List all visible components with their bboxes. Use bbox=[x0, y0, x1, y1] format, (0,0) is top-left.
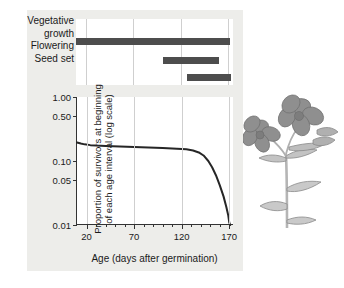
flowering-plant-illustration bbox=[243, 92, 344, 230]
plot-gridline-20 bbox=[87, 97, 88, 224]
stage-label-flowering: Flowering bbox=[27, 40, 74, 53]
y-tick-label-1.00: 1.00 bbox=[53, 92, 72, 103]
phenology-gridline-120 bbox=[181, 19, 182, 85]
x-tick-170 bbox=[229, 224, 230, 229]
x-minor-tick-30 bbox=[96, 224, 97, 227]
x-tick-120 bbox=[182, 224, 183, 229]
y-tick-0.01 bbox=[73, 225, 77, 226]
plot-gridline-70 bbox=[134, 97, 135, 224]
y-tick-label-0.05: 0.05 bbox=[53, 175, 72, 186]
phenology-bar-flowering bbox=[163, 57, 219, 64]
x-tick-20 bbox=[87, 224, 88, 229]
x-minor-tick-160 bbox=[220, 224, 221, 227]
x-minor-tick-60 bbox=[125, 224, 126, 227]
x-tick-label-70: 70 bbox=[129, 231, 140, 242]
x-minor-tick-110 bbox=[172, 224, 173, 227]
x-tick-label-120: 120 bbox=[174, 231, 190, 242]
stage-label-vegetative-line2: growth bbox=[27, 28, 74, 41]
y-tick-label-0.01: 0.01 bbox=[53, 220, 72, 231]
x-minor-tick-80 bbox=[144, 224, 145, 227]
survivorship-plot: Proportion of survivors at beginning of … bbox=[76, 97, 233, 225]
x-minor-tick-40 bbox=[106, 224, 107, 227]
phenology-gridline-70 bbox=[133, 19, 134, 85]
y-tick-label-0.10: 0.10 bbox=[53, 156, 72, 167]
x-minor-tick-100 bbox=[163, 224, 164, 227]
phenology-bar-vegetative-growth bbox=[76, 38, 230, 45]
x-minor-tick-90 bbox=[153, 224, 154, 227]
y-tick-label-0.50: 0.50 bbox=[53, 111, 72, 122]
plot-gridline-170 bbox=[229, 97, 230, 224]
phenology-bar-seed-set bbox=[187, 74, 231, 81]
phenology-gridline-20 bbox=[86, 19, 87, 85]
phenology-panel bbox=[76, 19, 233, 85]
y-tick-0.05 bbox=[73, 180, 77, 181]
x-tick-70 bbox=[134, 224, 135, 229]
y-tick-0.10 bbox=[73, 161, 77, 162]
survivorship-curve bbox=[77, 97, 234, 225]
phenology-stage-labels: Vegetative growth Flowering Seed set bbox=[27, 15, 74, 87]
x-axis-title: Age (days after germination) bbox=[76, 253, 233, 264]
y-tick-0.50 bbox=[73, 116, 77, 117]
x-minor-tick-140 bbox=[201, 224, 202, 227]
x-tick-label-20: 20 bbox=[81, 231, 92, 242]
y-tick-1.00 bbox=[73, 97, 77, 98]
x-minor-tick-150 bbox=[210, 224, 211, 227]
x-minor-tick-50 bbox=[115, 224, 116, 227]
figure-container: Vegetative growth Flowering Seed set Pro… bbox=[0, 0, 344, 288]
plot-gridline-120 bbox=[182, 97, 183, 224]
x-minor-tick-130 bbox=[191, 224, 192, 227]
stage-label-vegetative-line1: Vegetative bbox=[27, 15, 74, 28]
stage-label-seed-set: Seed set bbox=[27, 53, 74, 66]
x-tick-label-170: 170 bbox=[221, 231, 237, 242]
